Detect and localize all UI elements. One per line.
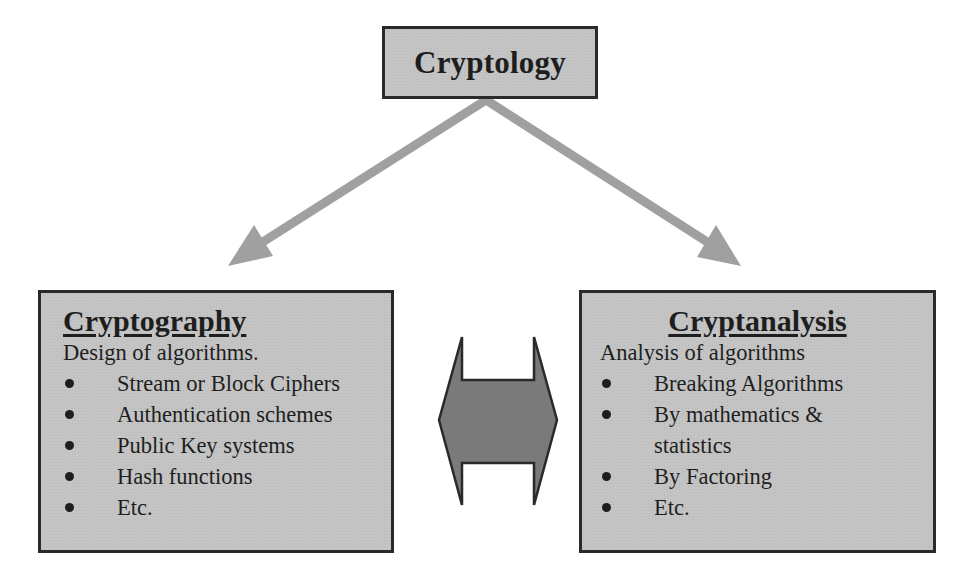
list-item: Etc.	[63, 492, 391, 523]
list-item-label: Authentication schemes	[117, 402, 333, 427]
cryptography-heading: Cryptography	[63, 305, 391, 337]
double-arrow-icon	[439, 337, 557, 505]
arrowhead-left-icon	[228, 225, 273, 266]
list-item-label: Etc.	[117, 495, 153, 520]
list-item: Authentication schemes	[63, 399, 391, 430]
list-item: Hash functions	[63, 461, 391, 492]
bullet-icon	[65, 441, 74, 450]
list-item: Etc.	[600, 492, 933, 523]
list-item-label: Etc.	[654, 495, 690, 520]
bullet-icon	[602, 503, 611, 512]
list-item: By Factoring	[600, 461, 933, 492]
bullet-icon	[65, 379, 74, 388]
cryptanalysis-subtitle: Analysis of algorithms	[600, 337, 933, 368]
list-item: Stream or Block Ciphers	[63, 368, 391, 399]
cryptanalysis-heading: Cryptanalysis	[600, 305, 933, 337]
arrowhead-right-icon	[697, 225, 741, 266]
list-item-label: By mathematics &	[654, 402, 823, 427]
bullet-icon	[65, 503, 74, 512]
cryptography-subtitle: Design of algorithms.	[63, 337, 391, 368]
list-item-label: Stream or Block Ciphers	[117, 371, 340, 396]
bullet-icon	[65, 472, 74, 481]
cryptanalysis-list: Breaking Algorithms By mathematics &stat…	[600, 368, 933, 523]
cryptography-list: Stream or Block Ciphers Authentication s…	[63, 368, 391, 523]
list-item-continuation: statistics	[654, 433, 732, 458]
list-item: Public Key systems	[63, 430, 391, 461]
bullet-icon	[65, 410, 74, 419]
arrow-root-to-cryptanalysis	[486, 100, 741, 266]
list-item-label: Hash functions	[117, 464, 253, 489]
bullet-icon	[602, 472, 611, 481]
root-node-label: Cryptology	[414, 45, 566, 81]
node-cryptanalysis: Cryptanalysis Analysis of algorithms Bre…	[579, 290, 936, 553]
list-item-label: By Factoring	[654, 464, 772, 489]
list-item: By mathematics &statistics	[600, 399, 933, 461]
bullet-icon	[602, 410, 611, 419]
node-cryptography: Cryptography Design of algorithms. Strea…	[38, 290, 394, 553]
list-item-label: Public Key systems	[117, 433, 295, 458]
list-item-label: Breaking Algorithms	[654, 371, 843, 396]
bullet-icon	[602, 379, 611, 388]
list-item: Breaking Algorithms	[600, 368, 933, 399]
root-node-cryptology: Cryptology	[382, 26, 598, 99]
arrow-root-to-cryptography	[228, 100, 486, 266]
